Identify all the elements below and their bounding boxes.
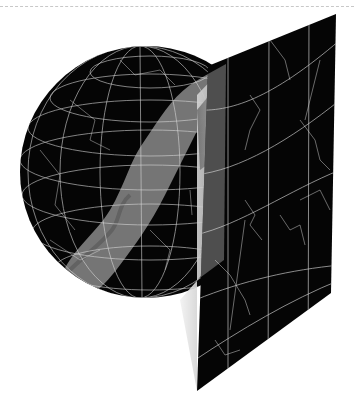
flat-star-chart-panel [195, 14, 340, 400]
celestial-projection-figure [0, 0, 354, 412]
